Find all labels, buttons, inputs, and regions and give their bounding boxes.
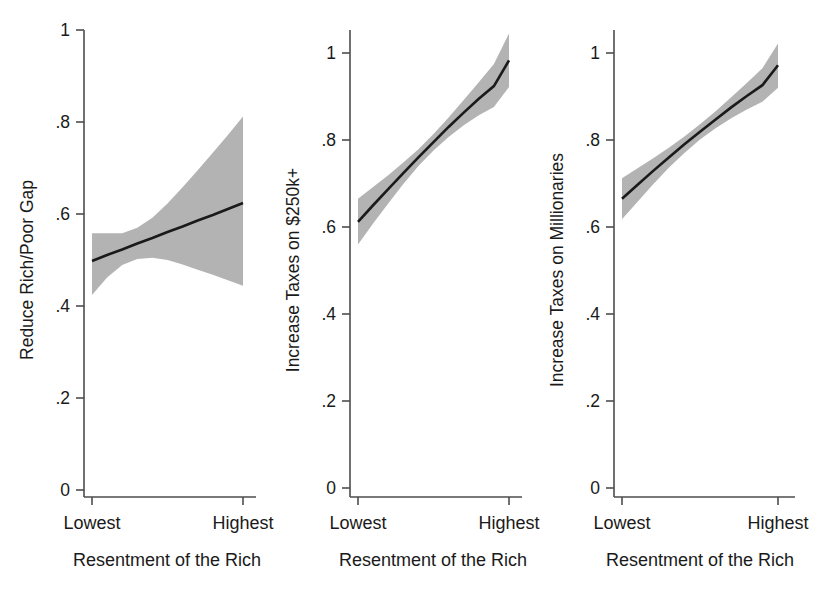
y-tick-label-08: .8 (55, 112, 70, 132)
y-tick-label-0: 0 (590, 478, 600, 498)
y-tick-label-04: .4 (585, 304, 600, 324)
panel-reduce-rich-poor-gap: 1 .8 .6 .4 .2 0 Reduce Rich/Poor Gap Low… (0, 0, 280, 591)
y-axis-title: Increase Taxes on Millionaries (547, 153, 567, 387)
y-axis-title: Reduce Rich/Poor Gap (17, 180, 37, 360)
y-tick-label-0: 0 (60, 480, 70, 500)
y-tick-label-06: .6 (55, 204, 70, 224)
y-axis-1: 1 .8 .6 .4 .2 0 Reduce Rich/Poor Gap (17, 20, 84, 500)
panel-increase-taxes-millionaries: 1 .8 .6 .4 .2 0 Increase Taxes on Millio… (530, 0, 829, 591)
panel-1-plot: 1 .8 .6 .4 .2 0 Reduce Rich/Poor Gap Low… (0, 0, 280, 591)
y-tick-label-06: .6 (321, 217, 336, 237)
x-axis-title: Resentment of the Rich (606, 550, 794, 570)
y-axis-2: 1 .8 .6 .4 .2 0 Increase Taxes on $250k+ (283, 30, 350, 498)
x-axis-title: Resentment of the Rich (339, 550, 527, 570)
x-axis-3: Lowest Highest Resentment of the Rich (593, 497, 808, 570)
y-axis-3: 1 .8 .6 .4 .2 0 Increase Taxes on Millio… (547, 30, 614, 498)
y-tick-label-08: .8 (585, 130, 600, 150)
ci-band-group-1 (92, 116, 243, 294)
y-axis-title: Increase Taxes on $250k+ (283, 168, 303, 372)
confidence-band (92, 116, 243, 294)
x-tick-label-lowest: Lowest (593, 513, 650, 533)
ci-band-group-2 (358, 33, 509, 244)
y-tick-label-02: .2 (585, 391, 600, 411)
x-tick-label-highest: Highest (747, 513, 808, 533)
y-tick-label-1: 1 (590, 43, 600, 63)
y-tick-label-02: .2 (321, 391, 336, 411)
x-tick-label-highest: Highest (212, 513, 273, 533)
x-axis-title: Resentment of the Rich (73, 550, 261, 570)
y-tick-label-04: .4 (321, 304, 336, 324)
y-tick-label-02: .2 (55, 388, 70, 408)
y-tick-label-08: .8 (321, 130, 336, 150)
y-tick-label-1: 1 (60, 20, 70, 40)
y-tick-label-04: .4 (55, 296, 70, 316)
y-tick-label-06: .6 (585, 217, 600, 237)
panel-3-plot: 1 .8 .6 .4 .2 0 Increase Taxes on Millio… (530, 0, 829, 591)
x-tick-label-lowest: Lowest (63, 513, 120, 533)
x-axis-2: Lowest Highest Resentment of the Rich (329, 497, 539, 570)
panel-2-plot: 1 .8 .6 .4 .2 0 Increase Taxes on $250k+… (266, 0, 546, 591)
y-tick-label-1: 1 (326, 43, 336, 63)
confidence-band (358, 33, 509, 244)
panel-increase-taxes-250k: 1 .8 .6 .4 .2 0 Increase Taxes on $250k+… (266, 0, 546, 591)
y-tick-label-0: 0 (326, 478, 336, 498)
x-axis-1: Lowest Highest Resentment of the Rich (63, 497, 273, 570)
x-tick-label-lowest: Lowest (329, 513, 386, 533)
figure-container: 1 .8 .6 .4 .2 0 Reduce Rich/Poor Gap Low… (0, 0, 829, 591)
